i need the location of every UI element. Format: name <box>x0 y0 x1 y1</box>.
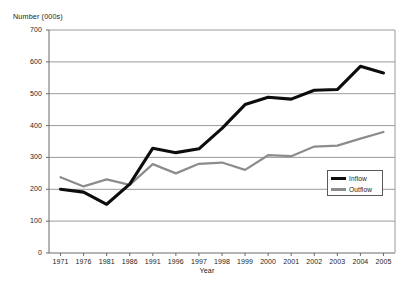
y-tick-label: 400 <box>18 122 42 129</box>
y-tick-label: 700 <box>18 26 42 33</box>
y-tick-label: 0 <box>18 249 42 256</box>
y-tick-label: 300 <box>18 153 42 160</box>
line-chart: Number (000s) 0100200300400500600700 197… <box>0 0 414 285</box>
legend-item-outflow: Outflow <box>331 184 372 195</box>
y-tick-label: 600 <box>18 58 42 65</box>
legend-swatch-outflow-icon <box>331 188 346 191</box>
x-axis-title: Year <box>0 266 414 275</box>
y-tick-label: 100 <box>18 217 42 224</box>
legend-label-outflow: Outflow <box>349 186 372 193</box>
legend-label-inflow: Inflow <box>349 175 367 182</box>
legend-swatch-inflow-icon <box>331 177 346 180</box>
legend-item-inflow: Inflow <box>331 173 367 184</box>
axis-lines <box>49 30 395 253</box>
y-tick-label: 500 <box>18 90 42 97</box>
x-tick-label: 2005 <box>368 258 398 265</box>
chart-legend: Inflow Outflow <box>327 170 383 196</box>
plot-area <box>0 0 414 285</box>
y-tick-label: 200 <box>18 185 42 192</box>
